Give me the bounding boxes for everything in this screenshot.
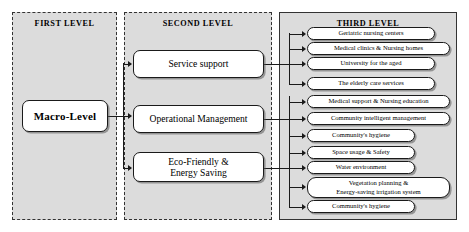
arrowhead-item-6 xyxy=(302,116,306,122)
node-operational-management[interactable]: Operational Management xyxy=(133,105,264,133)
arrowhead-service xyxy=(128,61,132,67)
node-university-for-the-aged[interactable]: University for the aged xyxy=(307,57,435,70)
panel-second-level-title: SECOND LEVEL xyxy=(125,19,271,28)
arrowhead-item-7 xyxy=(302,133,306,139)
node-operational-management-label: Operational Management xyxy=(150,113,248,124)
node-eco-friendly-energy-saving[interactable]: Eco-Friendly & Energy Saving xyxy=(133,152,264,182)
node-eco-line-2: Energy Saving xyxy=(170,167,227,178)
node-macro-level[interactable]: Macro-Level xyxy=(22,100,108,132)
node-medical-clinics-nursing-homes[interactable]: Medical clinics & Nursing homes xyxy=(307,42,450,55)
node-geriatric-nursing-centers-label: Geriatric nursing centers xyxy=(338,29,403,37)
arrowhead-item-4 xyxy=(302,81,306,87)
node-geriatric-nursing-centers[interactable]: Geriatric nursing centers xyxy=(307,27,435,40)
node-community-hygiene-2[interactable]: Community's hygiene xyxy=(307,200,415,213)
connector-operation-trunk xyxy=(264,119,290,120)
node-space-usage-safety-label: Space usage & Safety xyxy=(332,148,390,156)
connector-macro-stub xyxy=(108,116,124,117)
node-community-hygiene-2-label: Community's hygiene xyxy=(332,202,390,210)
node-vegetation-planning-irrigation-label: Vegetation planning & Energy-saving irri… xyxy=(336,179,420,195)
connector-service-bus xyxy=(289,33,290,84)
arrowhead-item-3 xyxy=(302,61,306,67)
node-community-hygiene-1[interactable]: Community's hygiene xyxy=(307,129,415,142)
arrowhead-operation xyxy=(128,113,132,119)
node-medical-support-nursing-education-label: Medical support & Nursing education xyxy=(329,97,429,105)
node-water-environment[interactable]: Water environment xyxy=(307,161,415,174)
node-service-support-label: Service support xyxy=(169,58,229,69)
node-community-hygiene-1-label: Community's hygiene xyxy=(332,131,390,139)
arrowhead-eco xyxy=(128,165,132,171)
node-elderly-care-services[interactable]: The elderly care services xyxy=(307,77,435,90)
connector-eco-bus xyxy=(289,134,290,207)
diagram-canvas: FIRST LEVEL SECOND LEVEL THIRD LEVEL xyxy=(0,0,469,232)
arrowhead-item-10 xyxy=(302,184,306,190)
node-eco-line-1: Eco-Friendly & xyxy=(168,156,228,167)
node-university-for-the-aged-label: University for the aged xyxy=(341,59,402,67)
arrowhead-item-2 xyxy=(302,46,306,52)
arrowhead-item-9 xyxy=(302,165,306,171)
node-community-intelligent-management-label: Community intelligent management xyxy=(331,114,426,122)
node-vegetation-line-2: Energy-saving irrigation system xyxy=(336,188,420,195)
node-community-intelligent-management[interactable]: Community intelligent management xyxy=(307,112,450,125)
arrowhead-item-11 xyxy=(302,204,306,210)
node-space-usage-safety[interactable]: Space usage & Safety xyxy=(307,146,415,159)
node-medical-clinics-nursing-homes-label: Medical clinics & Nursing homes xyxy=(334,44,423,52)
arrowhead-item-8 xyxy=(302,150,306,156)
panel-first-level-title: FIRST LEVEL xyxy=(13,19,116,28)
arrowhead-item-1 xyxy=(302,31,306,37)
node-macro-level-label: Macro-Level xyxy=(34,110,96,122)
node-vegetation-line-1: Vegetation planning & xyxy=(349,179,409,186)
node-water-environment-label: Water environment xyxy=(336,163,387,171)
arrowhead-item-5 xyxy=(302,99,306,105)
node-service-support[interactable]: Service support xyxy=(133,50,264,78)
connector-service-trunk xyxy=(264,64,290,65)
node-elderly-care-services-label: The elderly care services xyxy=(338,79,404,87)
node-eco-friendly-energy-saving-label: Eco-Friendly & Energy Saving xyxy=(168,156,228,179)
connector-eco-trunk xyxy=(264,168,290,169)
node-medical-support-nursing-education[interactable]: Medical support & Nursing education xyxy=(307,95,450,108)
node-vegetation-planning-irrigation[interactable]: Vegetation planning & Energy-saving irri… xyxy=(307,177,450,198)
